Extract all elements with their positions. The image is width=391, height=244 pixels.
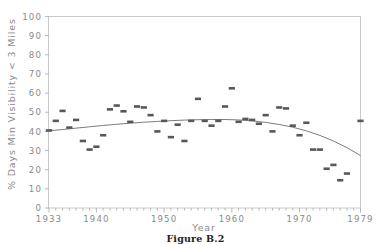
data-point [269,130,275,133]
x-axis-title: Year [191,222,215,233]
data-point [66,126,72,129]
data-point [120,110,126,113]
data-point [147,114,153,117]
x-tick-label: 1940 [83,214,109,224]
data-point [229,87,235,90]
y-tick-label: 50 [29,107,42,117]
data-point [154,130,160,133]
y-tick-label: 30 [29,146,42,156]
data-point [324,167,330,170]
data-point [317,148,323,151]
x-tick-label: 1960 [219,214,245,224]
data-point [276,106,282,109]
data-point [344,172,350,175]
x-tick-label: 1970 [286,214,312,224]
data-point [188,120,194,123]
data-point [330,164,336,167]
visibility-trend-chart: 0102030405060708090100 19331940195019601… [0,0,391,244]
data-point [357,120,363,123]
data-point [175,123,181,126]
data-point [80,140,86,143]
data-point [93,145,99,148]
y-tick-label: 100 [22,12,42,22]
y-tick-label: 20 [29,165,42,175]
y-tick-label: 10 [29,184,42,194]
x-tick-label: 1950 [151,214,177,224]
y-axis-title: % Days Min Visibility < 3 Miles [6,18,17,190]
data-point [242,118,248,121]
data-point [127,121,133,124]
data-point [303,121,309,124]
y-tick-label: 40 [29,127,42,137]
data-point [290,124,296,127]
data-point [249,119,255,122]
data-point [222,105,228,108]
y-tick-label: 80 [29,50,42,60]
y-tick-label: 0 [35,203,42,213]
data-point [107,108,113,111]
data-point [168,136,174,139]
data-point [208,124,214,127]
data-point [100,134,106,137]
y-tick-label: 70 [29,69,42,79]
y-tick-label: 90 [29,31,42,41]
data-point [141,106,147,109]
data-point [215,120,221,123]
x-tick-label: 1933 [36,214,62,224]
data-point [236,121,242,124]
x-tick-label: 1979 [347,214,373,224]
figure-caption: Figure B.2 [0,233,391,244]
data-point [134,105,140,108]
data-point [263,114,269,117]
data-point [53,120,59,123]
data-point [283,107,289,110]
data-point [87,148,93,151]
data-point [310,148,316,151]
y-tick-label: 60 [29,88,42,98]
data-point [337,179,343,182]
data-point [73,119,79,122]
data-point [181,140,187,143]
data-point [46,129,52,132]
data-point [202,120,208,123]
data-point [161,120,167,123]
data-point [256,122,262,125]
data-point [114,104,120,107]
data-point [195,98,201,101]
data-point [59,110,65,113]
data-point [296,134,302,137]
